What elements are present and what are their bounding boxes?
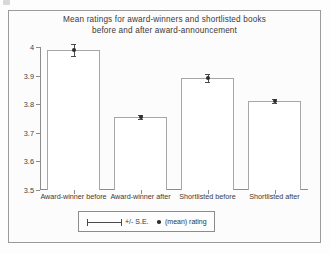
mean-marker bbox=[72, 48, 76, 52]
chart-title: Mean ratings for award-winners and short… bbox=[8, 14, 321, 36]
bar bbox=[248, 101, 302, 190]
scan-artifact bbox=[3, 0, 10, 5]
error-bar-cap-bottom bbox=[138, 119, 143, 120]
mean-marker bbox=[139, 115, 143, 119]
error-bar-cap-bottom bbox=[71, 56, 76, 57]
legend-errorbar-cap-left-icon bbox=[87, 219, 88, 226]
y-axis-tick-label: 3.9 bbox=[24, 71, 34, 80]
y-axis-tick-label: 3.6 bbox=[24, 157, 34, 166]
bar bbox=[181, 78, 235, 190]
error-bar-cap-top bbox=[205, 74, 210, 75]
x-axis-category-label: Award-winner after bbox=[110, 192, 170, 201]
y-axis-tick bbox=[36, 104, 40, 105]
chart-title-line-1: Mean ratings for award-winners and short… bbox=[8, 14, 321, 25]
y-axis-tick bbox=[36, 133, 40, 134]
bar bbox=[114, 117, 168, 190]
error-bar-cap-bottom bbox=[272, 103, 277, 104]
error-bar-cap-bottom bbox=[205, 82, 210, 83]
plot-area: 43.93.83.73.63.5 bbox=[40, 47, 308, 190]
y-axis-tick bbox=[36, 161, 40, 162]
chart-legend: +/- S.E. (mean) rating bbox=[78, 211, 215, 232]
y-axis-tick-label: 3.8 bbox=[24, 100, 34, 109]
y-axis-tick bbox=[36, 47, 40, 48]
mean-marker bbox=[273, 99, 277, 103]
legend-errorbar-icon bbox=[87, 222, 121, 223]
bar bbox=[47, 50, 101, 190]
mean-marker bbox=[206, 76, 210, 80]
chart-page: Mean ratings for award-winners and short… bbox=[0, 0, 330, 254]
legend-label-se: +/- S.E. bbox=[125, 218, 149, 225]
x-axis-labels: Award-winner beforeAward-winner afterSho… bbox=[8, 192, 321, 204]
y-axis-tick-label: 3.7 bbox=[24, 128, 34, 137]
x-axis-category-label: Award-winner before bbox=[40, 192, 106, 201]
y-axis-tick-label: 4 bbox=[30, 43, 34, 52]
y-axis-tick bbox=[36, 76, 40, 77]
y-axis-tick bbox=[36, 190, 40, 191]
legend-dot-icon bbox=[157, 220, 161, 224]
chart-title-line-2: before and after award-announcement bbox=[8, 25, 321, 36]
legend-errorbar-cap-right-icon bbox=[121, 219, 122, 226]
error-bar-cap-top bbox=[71, 44, 76, 45]
x-axis-category-label: Shortlisted before bbox=[179, 192, 235, 201]
x-axis-category-label: Shortlisted after bbox=[249, 192, 299, 201]
legend-label-mean-rating: (mean) rating bbox=[165, 218, 207, 225]
